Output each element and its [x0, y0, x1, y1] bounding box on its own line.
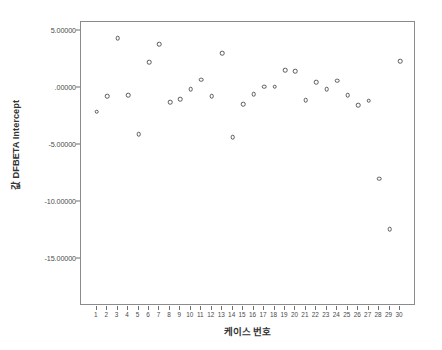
x-tick-mark	[221, 306, 222, 310]
x-axis-title: 케이스 번호	[80, 324, 415, 338]
x-tick-label: 23	[322, 311, 329, 318]
x-tick-label: 30	[395, 311, 402, 318]
x-tick-label: 4	[125, 311, 129, 318]
x-tick-mark	[127, 306, 128, 310]
x-tick-mark	[158, 306, 159, 310]
x-tick-mark	[138, 306, 139, 310]
data-point[interactable]	[398, 59, 403, 64]
data-point[interactable]	[356, 103, 361, 108]
data-point[interactable]	[272, 84, 277, 89]
x-tick-label: 25	[343, 311, 350, 318]
data-point[interactable]	[335, 78, 340, 83]
y-axis-title: 값 DFBETA Intercept	[8, 0, 22, 290]
x-tick-label: 16	[249, 311, 256, 318]
scatter-chart: 5.00000.00000-5.00000-10.00000-15.00000 …	[0, 0, 442, 350]
x-tick-mark	[263, 306, 264, 310]
x-tick-mark	[378, 306, 379, 310]
x-tick-label: 20	[291, 311, 298, 318]
x-tick-label: 6	[146, 311, 150, 318]
data-point[interactable]	[314, 80, 319, 85]
data-point[interactable]	[147, 60, 152, 65]
data-point[interactable]	[345, 93, 350, 98]
x-tick-mark	[347, 306, 348, 310]
x-tick-label: 18	[270, 311, 277, 318]
x-tick-label: 24	[333, 311, 340, 318]
x-tick-label: 14	[228, 311, 235, 318]
x-tick-mark	[315, 306, 316, 310]
x-tick-label: 1	[94, 311, 98, 318]
x-tick-mark	[389, 306, 390, 310]
x-tick-mark	[326, 306, 327, 310]
x-tick-label: 5	[136, 311, 140, 318]
x-tick-label: 19	[280, 311, 287, 318]
data-point[interactable]	[230, 135, 235, 140]
data-point[interactable]	[189, 87, 194, 92]
data-point[interactable]	[178, 97, 183, 102]
x-tick-mark	[294, 306, 295, 310]
x-tick-mark	[232, 306, 233, 310]
x-tick-mark	[190, 306, 191, 310]
data-point[interactable]	[366, 98, 371, 103]
x-tick-mark	[242, 306, 243, 310]
x-tick-label: 15	[239, 311, 246, 318]
x-tick-label: 21	[301, 311, 308, 318]
data-point[interactable]	[220, 51, 225, 56]
x-tick-mark	[169, 306, 170, 310]
data-point[interactable]	[94, 109, 99, 114]
data-point[interactable]	[325, 87, 330, 92]
x-tick-mark	[305, 306, 306, 310]
x-tick-mark	[106, 306, 107, 310]
x-tick-mark	[284, 306, 285, 310]
data-point[interactable]	[262, 84, 267, 89]
plot-area	[80, 21, 415, 305]
data-point[interactable]	[377, 176, 382, 181]
data-point[interactable]	[157, 42, 162, 47]
x-tick-label: 27	[364, 311, 371, 318]
x-tick-label: 13	[218, 311, 225, 318]
data-point[interactable]	[115, 36, 120, 41]
x-tick-label: 11	[197, 311, 204, 318]
x-tick-label: 26	[354, 311, 361, 318]
data-point[interactable]	[241, 102, 246, 107]
x-tick-mark	[336, 306, 337, 310]
data-point[interactable]	[126, 93, 131, 98]
x-tick-mark	[211, 306, 212, 310]
x-tick-label: 17	[259, 311, 266, 318]
data-point[interactable]	[283, 68, 288, 73]
x-tick-label: 8	[167, 311, 171, 318]
x-tick-label: 7	[157, 311, 161, 318]
x-tick-label: 28	[375, 311, 382, 318]
x-tick-label: 29	[385, 311, 392, 318]
x-tick-mark	[179, 306, 180, 310]
x-tick-label: 22	[312, 311, 319, 318]
x-tick-mark	[274, 306, 275, 310]
x-tick-mark	[357, 306, 358, 310]
data-point[interactable]	[168, 100, 173, 105]
x-tick-label: 10	[186, 311, 193, 318]
data-point[interactable]	[387, 227, 392, 232]
data-point[interactable]	[136, 132, 141, 137]
x-tick-mark	[368, 306, 369, 310]
x-tick-mark	[117, 306, 118, 310]
x-tick-mark	[253, 306, 254, 310]
x-tick-mark	[148, 306, 149, 310]
x-tick-label: 9	[178, 311, 182, 318]
x-tick-mark	[399, 306, 400, 310]
data-point[interactable]	[105, 94, 110, 99]
data-point[interactable]	[251, 92, 256, 97]
x-tick-label: 2	[104, 311, 108, 318]
x-tick-mark	[200, 306, 201, 310]
x-tick-label: 3	[115, 311, 119, 318]
data-point[interactable]	[304, 98, 309, 103]
data-point[interactable]	[293, 69, 298, 74]
x-tick-label: 12	[207, 311, 214, 318]
data-point[interactable]	[209, 94, 214, 99]
data-point[interactable]	[199, 77, 204, 82]
x-tick-mark	[96, 306, 97, 310]
